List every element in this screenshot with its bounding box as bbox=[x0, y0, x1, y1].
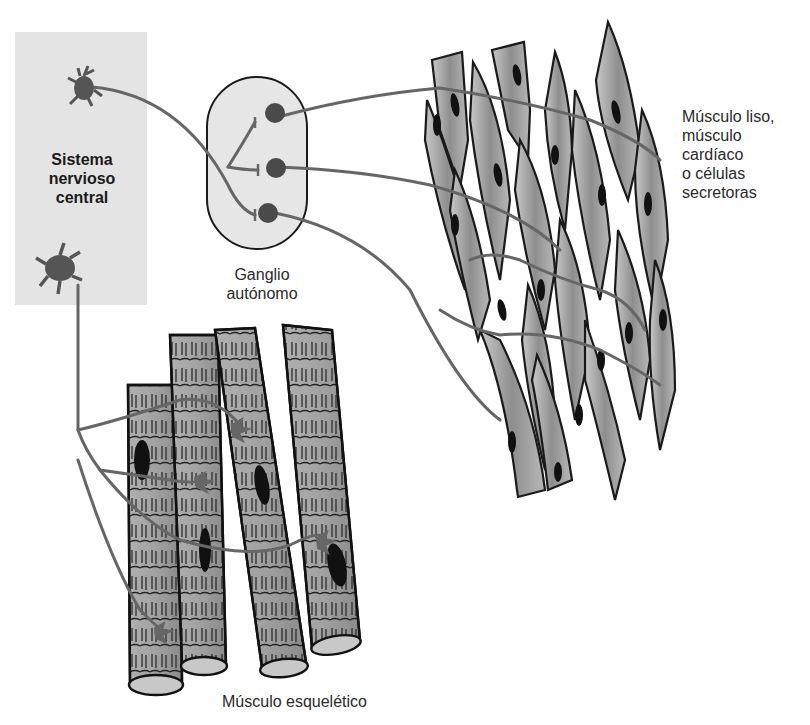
smooth-muscle-label-line: secretoras bbox=[682, 183, 810, 202]
smooth-muscle-label-line: músculo bbox=[682, 126, 810, 145]
autonomic-ganglion bbox=[207, 77, 307, 249]
cns-label-line: central bbox=[22, 188, 142, 207]
cns-label-line: nervioso bbox=[22, 169, 142, 188]
smooth-muscle-label-line: Músculo liso, bbox=[682, 107, 810, 126]
ganglion-neuron-2 bbox=[266, 158, 286, 178]
cns-label: Sistema nervioso central bbox=[22, 150, 142, 207]
smooth-muscle-cells bbox=[425, 22, 675, 500]
ganglion-neuron-3 bbox=[258, 203, 278, 223]
ganglion-label: Ganglio autónomo bbox=[212, 265, 312, 303]
ganglion-label-line: autónomo bbox=[212, 284, 312, 303]
somatic-motor-neuron-icon bbox=[36, 243, 82, 294]
preganglionic-neuron-icon bbox=[68, 66, 102, 106]
ganglion-label-line: Ganglio bbox=[212, 265, 312, 284]
skeletal-muscle-label: Músculo esquelético bbox=[222, 692, 422, 711]
cns-label-line: Sistema bbox=[22, 150, 142, 169]
smooth-muscle-label: Músculo liso, músculo cardíaco o células… bbox=[682, 107, 810, 202]
smooth-muscle-label-line: o células bbox=[682, 164, 810, 183]
ganglion-neuron-1 bbox=[265, 103, 285, 123]
diagram: Sistema nervioso central Ganglio autónom… bbox=[0, 0, 810, 725]
smooth-muscle-label-line: cardíaco bbox=[682, 145, 810, 164]
